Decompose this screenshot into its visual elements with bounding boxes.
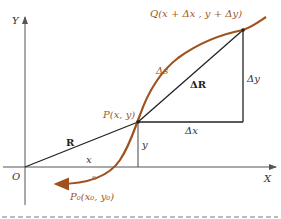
delta-r-vector [138, 30, 243, 122]
delta-x-label: Δx [184, 125, 198, 136]
delta-s-label: Δs [155, 65, 168, 76]
r-label: R [66, 137, 75, 148]
delta-r-label: ΔR [190, 79, 207, 90]
y-axis-label: Y [12, 15, 20, 26]
s-label: s [92, 173, 96, 182]
origin-label: O [12, 171, 20, 182]
delta-y-label: Δy [246, 73, 260, 84]
y-label: y [141, 139, 148, 150]
position-vector-diagram: Y X O P(x, y) Q(x + Δx , y + Δy) P₀(x₀, … [0, 0, 281, 219]
point-p0-label: P₀(x₀, y₀) [69, 191, 114, 202]
point-q-label: Q(x + Δx , y + Δy) [150, 8, 242, 19]
x-label: x [86, 154, 92, 165]
point-p [136, 120, 140, 124]
x-axis-label: X [263, 173, 272, 184]
point-q [241, 28, 245, 32]
point-p-label: P(x, y) [102, 109, 135, 120]
